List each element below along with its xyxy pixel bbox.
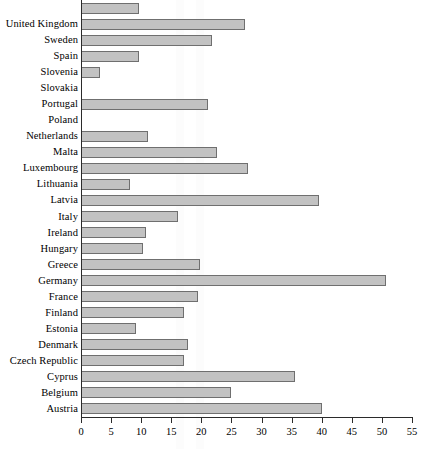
category-label: Ireland <box>48 227 78 239</box>
category-label: Finland <box>45 307 78 319</box>
category-axis-labels: United KingdomSwedenSpainSloveniaSlovaki… <box>0 0 78 417</box>
x-tick-label: 35 <box>286 426 297 438</box>
category-label: Hungary <box>41 243 78 255</box>
x-tick-label: 55 <box>407 426 418 438</box>
category-label: Luxembourg <box>23 162 78 174</box>
bar <box>81 211 178 222</box>
category-label: Sweden <box>44 34 78 46</box>
category-label: Denmark <box>38 339 78 351</box>
x-tick-mark <box>171 418 172 423</box>
category-label: Lithuania <box>37 178 78 190</box>
x-tick-mark <box>141 418 142 423</box>
bar <box>81 339 188 350</box>
bar <box>81 323 136 334</box>
bar <box>81 67 100 78</box>
x-tick-mark <box>382 418 383 423</box>
bar <box>81 403 322 414</box>
bar <box>81 291 198 302</box>
plot-area <box>81 0 412 417</box>
category-label: Belgium <box>41 387 78 399</box>
category-label: Malta <box>53 146 78 158</box>
x-tick-label: 30 <box>256 426 267 438</box>
bar <box>81 51 139 62</box>
bar <box>81 275 386 286</box>
x-tick-label: 50 <box>377 426 388 438</box>
y-axis-line <box>81 0 82 418</box>
bar <box>81 163 248 174</box>
category-label: Italy <box>58 211 78 223</box>
category-label: United Kingdom <box>6 18 78 30</box>
category-label: Cyprus <box>47 371 78 383</box>
x-tick-mark <box>231 418 232 423</box>
x-tick-mark <box>262 418 263 423</box>
category-label: France <box>49 291 78 303</box>
x-tick-mark <box>111 418 112 423</box>
x-tick-mark <box>412 418 413 423</box>
bar <box>81 307 184 318</box>
bar <box>81 371 295 382</box>
category-label: Slovenia <box>40 66 78 78</box>
x-tick-label: 45 <box>347 426 358 438</box>
bar <box>81 227 146 238</box>
x-tick-label: 25 <box>226 426 237 438</box>
x-tick-label: 10 <box>136 426 147 438</box>
bar-chart: United KingdomSwedenSpainSloveniaSlovaki… <box>0 0 424 449</box>
category-label: Czech Republic <box>10 355 78 367</box>
bar <box>81 147 217 158</box>
category-label: Poland <box>48 114 78 126</box>
x-tick-mark <box>322 418 323 423</box>
bar <box>81 355 184 366</box>
x-tick-mark <box>292 418 293 423</box>
bar <box>81 35 212 46</box>
category-label: Spain <box>54 50 78 62</box>
category-label: Estonia <box>46 323 78 335</box>
category-label: Austria <box>46 403 78 415</box>
category-label: Portugal <box>42 98 78 110</box>
x-tick-mark <box>201 418 202 423</box>
x-tick-mark <box>81 418 82 423</box>
bar <box>81 3 139 14</box>
bar <box>81 179 130 190</box>
bar <box>81 387 231 398</box>
x-tick-label: 5 <box>108 426 113 438</box>
category-label: Netherlands <box>26 130 78 142</box>
x-tick-mark <box>352 418 353 423</box>
bar <box>81 259 200 270</box>
x-axis-line <box>81 417 413 418</box>
bar <box>81 131 148 142</box>
bar <box>81 195 319 206</box>
category-label: Slovakia <box>40 82 78 94</box>
x-tick-label: 15 <box>166 426 177 438</box>
x-tick-label: 20 <box>196 426 207 438</box>
x-tick-label: 40 <box>316 426 327 438</box>
category-label: Germany <box>38 275 78 287</box>
category-label: Latvia <box>51 194 78 206</box>
bar <box>81 19 245 30</box>
bar <box>81 243 143 254</box>
category-label: Greece <box>48 259 78 271</box>
x-tick-label: 0 <box>78 426 83 438</box>
bar <box>81 99 208 110</box>
